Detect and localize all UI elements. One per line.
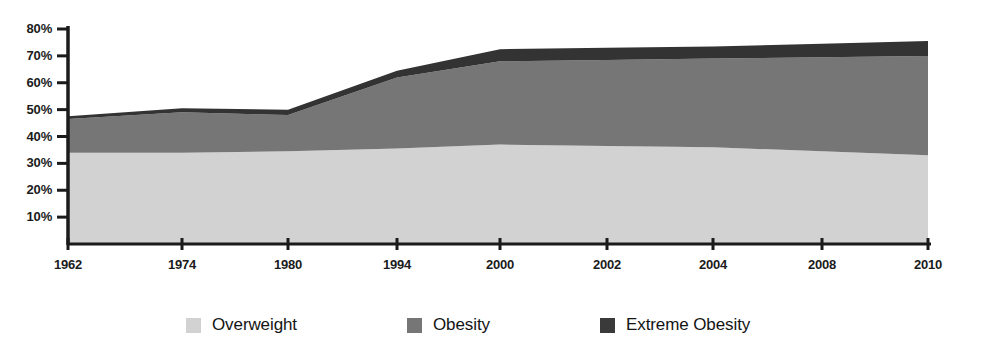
- legend-swatch-extreme-obesity: [600, 318, 615, 333]
- legend-item-extreme-obesity: Extreme Obesity: [600, 312, 750, 338]
- y-axis-tick-label: 20%: [0, 182, 52, 197]
- area-band-overweight: [68, 145, 928, 244]
- stacked-area-chart: 80%70%60%50%40%30%20%10% 196219741980199…: [0, 0, 992, 359]
- x-axis-tick-label: 2008: [782, 257, 862, 272]
- x-axis-tick-label: 1974: [142, 257, 222, 272]
- legend-label-extreme-obesity: Extreme Obesity: [626, 315, 750, 335]
- y-axis-tick-label: 80%: [0, 21, 52, 36]
- legend-item-obesity: Obesity: [407, 312, 490, 338]
- y-axis-tick-label: 50%: [0, 102, 52, 117]
- y-axis-tick-label: 40%: [0, 129, 52, 144]
- legend-swatch-obesity: [407, 318, 422, 333]
- x-axis-tick-label: 1980: [248, 257, 328, 272]
- legend-swatch-overweight: [186, 318, 201, 333]
- y-axis-tick-label: 60%: [0, 75, 52, 90]
- x-axis-tick-label: 1962: [28, 257, 108, 272]
- y-axis-tick-label: 70%: [0, 48, 52, 63]
- legend-item-overweight: Overweight: [186, 312, 297, 338]
- x-axis-tick-label: 1994: [357, 257, 437, 272]
- x-axis-tick-label: 2002: [567, 257, 647, 272]
- legend-label-obesity: Obesity: [433, 315, 490, 335]
- legend-label-overweight: Overweight: [212, 315, 297, 335]
- x-axis-tick-label: 2000: [460, 257, 540, 272]
- chart-plot-area: [0, 0, 992, 359]
- area-band-obesity: [68, 56, 928, 155]
- chart-legend: Overweight Obesity Extreme Obesity: [0, 312, 992, 346]
- x-axis-tick-label: 2010: [888, 257, 968, 272]
- y-axis-tick-label: 30%: [0, 155, 52, 170]
- y-axis-tick-label: 10%: [0, 209, 52, 224]
- x-axis-tick-label: 2004: [673, 257, 753, 272]
